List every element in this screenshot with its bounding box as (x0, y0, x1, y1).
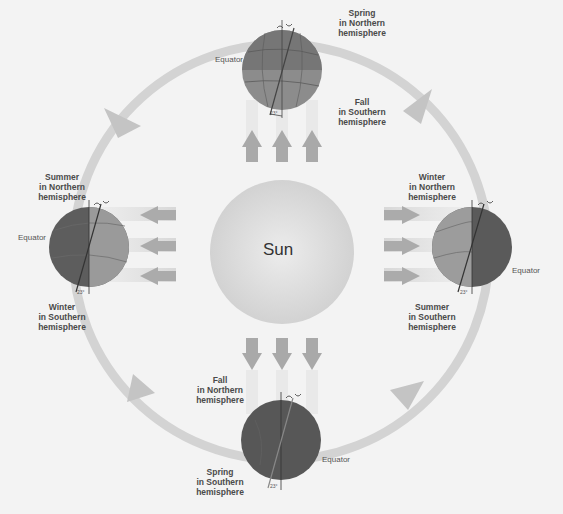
label-spring-southern: Spring in Southern hemisphere (192, 467, 248, 497)
label-spring-northern: Spring in Northern hemisphere (328, 8, 396, 38)
label-summer-northern: Summer in Northern hemisphere (38, 172, 86, 202)
sun-label: Sun (263, 240, 293, 260)
rotation-arrow-icon (286, 394, 301, 398)
tilt-label-top: 23° (270, 110, 278, 116)
label-fall-southern: Fall in Southern hemisphere (328, 97, 396, 127)
label-fall-northern: Fall in Northern hemisphere (192, 375, 248, 405)
label-summer-southern: Summer in Southern hemisphere (400, 302, 464, 332)
equator-label-top: Equator (215, 55, 243, 64)
seasons-diagram: Sun Spring in Northern hemisphere Fall i… (0, 0, 563, 514)
tilt-label-bottom: 23° (270, 483, 278, 489)
equator-label-right: Equator (512, 266, 540, 275)
label-winter-northern: Winter in Northern hemisphere (404, 172, 460, 202)
tilt-label-left: 23° (77, 289, 85, 295)
equator-label-bottom: Equator (322, 455, 350, 464)
label-winter-southern: Winter in Southern hemisphere (38, 302, 86, 332)
rotation-arrow-icon (277, 24, 292, 28)
orbit-arrow-lower-left (127, 374, 155, 402)
tilt-label-right: 23° (460, 289, 468, 295)
equator-label-left: Equator (18, 233, 46, 242)
